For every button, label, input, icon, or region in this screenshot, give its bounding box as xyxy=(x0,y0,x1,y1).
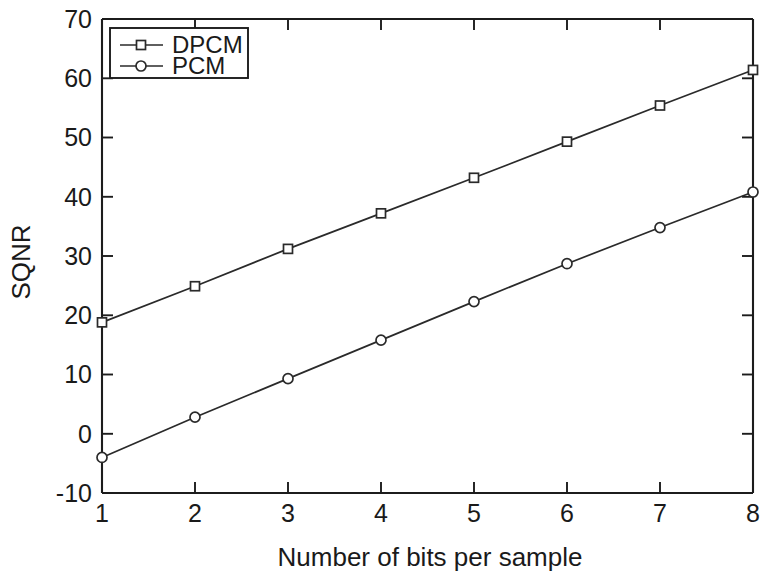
y-tick-label: 10 xyxy=(64,360,92,388)
y-tick-label: 30 xyxy=(64,242,92,270)
chart-figure: 70 60 50 40 30 20 10 0 -10 xyxy=(0,0,775,579)
x-tick-label: 3 xyxy=(281,499,295,527)
x-tick-label: 8 xyxy=(746,499,760,527)
circle-marker-icon xyxy=(748,187,758,197)
square-marker-icon xyxy=(137,41,146,50)
x-tick-label: 1 xyxy=(95,499,109,527)
circle-marker-icon xyxy=(655,223,665,233)
square-marker-icon xyxy=(377,209,386,218)
circle-marker-icon xyxy=(190,412,200,422)
x-tick-label: 4 xyxy=(374,499,388,527)
circle-marker-icon xyxy=(97,452,107,462)
y-tick-label: 40 xyxy=(64,183,92,211)
circle-marker-icon xyxy=(562,259,572,269)
circle-marker-icon xyxy=(469,297,479,307)
circle-marker-icon xyxy=(283,374,293,384)
square-marker-icon xyxy=(284,244,293,253)
square-marker-icon xyxy=(749,65,758,74)
y-tick-label: -10 xyxy=(56,479,92,507)
circle-marker-icon xyxy=(376,335,386,345)
y-tick-label: 60 xyxy=(64,64,92,92)
y-tick-label: 50 xyxy=(64,123,92,151)
y-tick-label: 70 xyxy=(64,5,92,33)
x-tick-label: 5 xyxy=(467,499,481,527)
x-tick-label: 2 xyxy=(188,499,202,527)
y-tick-label: 0 xyxy=(78,420,92,448)
x-tick-label: 7 xyxy=(653,499,667,527)
sqnr-line-chart: 70 60 50 40 30 20 10 0 -10 xyxy=(0,0,775,579)
y-tick-label: 20 xyxy=(64,301,92,329)
x-tick-label: 6 xyxy=(560,499,574,527)
circle-marker-icon xyxy=(136,61,146,71)
square-marker-icon xyxy=(191,282,200,291)
square-marker-icon xyxy=(563,137,572,146)
legend-label-pcm: PCM xyxy=(172,52,225,79)
x-axis-title: Number of bits per sample xyxy=(278,542,583,572)
y-axis-title: SQNR xyxy=(6,224,36,299)
square-marker-icon xyxy=(98,318,107,327)
square-marker-icon xyxy=(470,173,479,182)
square-marker-icon xyxy=(656,101,665,110)
chart-legend[interactable]: DPCM PCM xyxy=(110,28,248,79)
